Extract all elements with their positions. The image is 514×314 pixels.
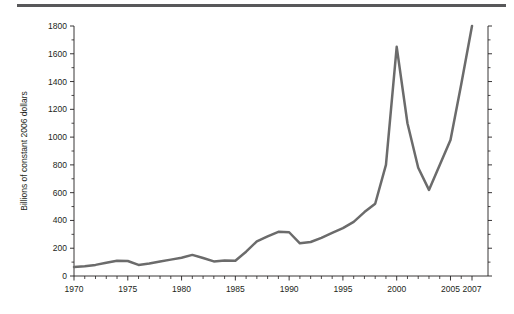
- x-tick-label: 1980: [172, 284, 191, 294]
- x-tick-label: 1970: [65, 284, 84, 294]
- x-tick-label: 1990: [280, 284, 299, 294]
- data-series-line: [74, 26, 472, 267]
- x-tick-label: 1975: [118, 284, 137, 294]
- y-axis: 020040060080010001200140016001800: [48, 21, 74, 281]
- x-tick-label: 1985: [226, 284, 245, 294]
- y-axis-title-text: Billions of constant 2006 dollars: [19, 91, 29, 211]
- x-tick-label: 1995: [333, 284, 352, 294]
- y-tick-label: 1200: [48, 104, 67, 114]
- y-axis-title: Billions of constant 2006 dollars: [19, 91, 29, 211]
- chart-figure: 020040060080010001200140016001800 197019…: [0, 0, 514, 314]
- y-tick-label: 1600: [48, 49, 67, 59]
- line-chart-plot: 020040060080010001200140016001800 197019…: [0, 0, 514, 314]
- y-tick-label: 1000: [48, 132, 67, 142]
- x-tick-label: 2000: [387, 284, 406, 294]
- y-tick-label: 600: [53, 188, 67, 198]
- y-tick-label: 1800: [48, 21, 67, 31]
- y-tick-label: 800: [53, 160, 67, 170]
- y-tick-label: 0: [62, 271, 67, 281]
- right-axis: [488, 26, 492, 276]
- y-tick-label: 200: [53, 243, 67, 253]
- y-tick-label: 1400: [48, 77, 67, 87]
- x-tick-label: 2005: [441, 284, 460, 294]
- x-axis: 197019751980198519901995200020052007: [65, 276, 488, 294]
- series-polyline: [74, 26, 472, 267]
- x-tick-label: 2007: [463, 284, 482, 294]
- y-tick-label: 400: [53, 215, 67, 225]
